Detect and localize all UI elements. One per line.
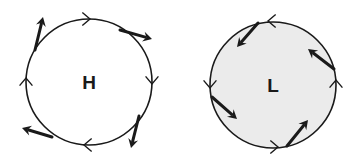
low-pressure-system: L [204, 15, 343, 154]
high-pressure-system: H [20, 13, 159, 152]
pressure-systems-diagram: H L [0, 0, 358, 166]
low-pressure-label: L [267, 75, 279, 96]
diagram-canvas: H L [0, 0, 358, 166]
high-pressure-label: H [82, 72, 96, 93]
